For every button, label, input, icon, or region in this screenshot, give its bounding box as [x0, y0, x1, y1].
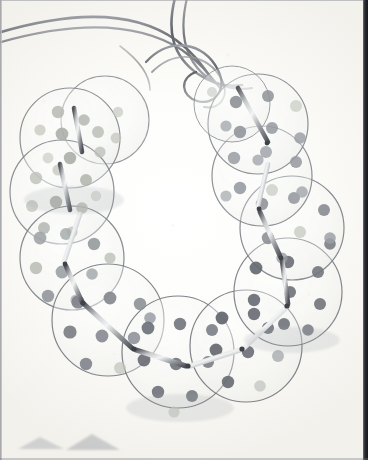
dot	[34, 124, 45, 135]
dot	[248, 308, 260, 320]
crimp-knot	[185, 363, 190, 368]
dot	[234, 182, 246, 194]
photograph-canvas	[0, 0, 368, 460]
crimp-knot	[279, 256, 284, 261]
scan-edge-top	[0, 0, 368, 1]
dot	[56, 128, 69, 141]
crimp-knot	[257, 207, 262, 212]
dot	[86, 268, 98, 280]
dot	[30, 172, 42, 184]
dot	[43, 153, 54, 164]
crimp-knot	[131, 346, 136, 351]
dot	[80, 358, 92, 370]
dot	[324, 232, 336, 244]
dot	[296, 186, 308, 198]
dot	[206, 324, 218, 336]
dot	[314, 298, 326, 310]
dot	[266, 184, 278, 196]
dot	[94, 146, 105, 157]
dot	[42, 290, 54, 302]
dot	[80, 174, 92, 186]
dot	[134, 298, 146, 310]
dot	[248, 294, 260, 306]
smudge-right	[66, 434, 120, 450]
dot	[30, 262, 42, 274]
disc-shadow	[244, 327, 340, 353]
dot	[252, 154, 263, 165]
dot	[113, 107, 123, 117]
crimp-knot	[265, 141, 270, 146]
dot	[234, 126, 246, 138]
dot	[230, 96, 242, 108]
dot	[104, 292, 117, 305]
smudge-group	[18, 434, 120, 450]
dot	[290, 156, 302, 168]
disc-shadow	[126, 394, 234, 422]
dot	[104, 252, 115, 263]
dot	[207, 87, 217, 97]
disc-shadow	[24, 186, 124, 214]
dot	[88, 238, 100, 250]
dot	[92, 126, 104, 138]
dot	[128, 332, 140, 344]
dot	[96, 330, 109, 343]
dot	[228, 152, 240, 164]
dot	[254, 380, 266, 392]
dot	[220, 190, 231, 201]
dot	[220, 120, 231, 131]
dot	[64, 152, 76, 164]
crimp-knot	[63, 262, 68, 267]
dot	[266, 122, 278, 134]
scan-edge-left	[0, 0, 2, 460]
dot	[216, 312, 229, 325]
dot	[318, 204, 330, 216]
dot	[63, 325, 76, 338]
crimp-knot	[80, 300, 85, 305]
dot	[250, 262, 263, 275]
dot	[294, 226, 306, 238]
dot	[290, 100, 302, 112]
crimp-knot	[239, 346, 244, 351]
dot	[262, 90, 274, 102]
dot	[78, 114, 90, 126]
dot	[174, 318, 186, 330]
necklace-artwork	[0, 0, 368, 460]
dot	[34, 232, 47, 245]
dot	[52, 106, 64, 118]
dot	[111, 133, 122, 144]
dot	[222, 376, 234, 388]
crimp-knot	[284, 303, 289, 308]
dot	[294, 132, 306, 144]
dot	[142, 322, 155, 335]
smudge-left	[18, 437, 64, 449]
dot	[114, 362, 126, 374]
scan-edge-right	[363, 0, 368, 460]
dot	[312, 266, 324, 278]
